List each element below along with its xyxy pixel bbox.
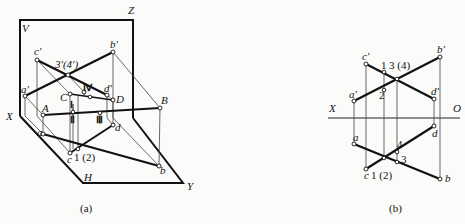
label-v-plane: V	[22, 22, 30, 34]
figure-b-orthographic: X O c′ b′ 1 3 (4) 2 a′ d′ a d 4 3 c 1 (2…	[328, 43, 461, 215]
label-2-b: 2	[379, 89, 385, 101]
caption-a: (a)	[80, 202, 93, 215]
label-roman-I: Ⅰ	[70, 99, 73, 110]
label-3-4-b: 3 (4)	[389, 59, 410, 72]
label-c-b: c	[364, 169, 369, 181]
label-b-prime-b: b′	[437, 43, 446, 55]
label-h-plane: H	[83, 171, 93, 183]
label-d-b: d	[432, 127, 438, 139]
label-d-prime: d′	[104, 82, 113, 94]
label-b-b: b	[445, 172, 451, 184]
label-B: B	[161, 94, 168, 106]
line-ab	[43, 134, 159, 166]
label-a-b: a	[353, 131, 359, 143]
label-b-prime: b′	[110, 38, 119, 50]
label-roman-II: Ⅱ	[70, 114, 75, 125]
label-a-prime-b: a′	[349, 88, 358, 100]
labels-b: X O c′ b′ 1 3 (4) 2 a′ d′ a d 4 3 c 1 (2…	[328, 43, 461, 215]
label-4-b: 4	[397, 138, 403, 150]
label-a-prime: a′	[21, 83, 30, 95]
label-1-2: 1 (2)	[74, 151, 95, 164]
label-roman-IV: Ⅳ	[83, 82, 93, 93]
label-c-prime-b: c′	[362, 50, 370, 62]
label-y-axis: Y	[187, 180, 195, 192]
label-c: c	[67, 153, 72, 165]
label-D: D	[115, 93, 124, 105]
label-A: A	[41, 102, 49, 114]
label-1-b: 1	[381, 59, 387, 71]
label-x-axis-b: X	[328, 102, 337, 114]
caption-b: (b)	[389, 202, 402, 215]
label-z-axis: Z	[128, 4, 135, 16]
label-C: C	[60, 91, 68, 103]
label-3-b: 3	[401, 153, 407, 165]
label-d: d	[115, 121, 121, 133]
label-c-prime: c′	[34, 45, 42, 57]
projection-diagram: V Z X H Y c′ b′ 3′(4′) a′ d′ C D A B a d…	[0, 0, 465, 224]
label-roman-III: Ⅲ	[96, 114, 103, 125]
figure-a-pictorial: V Z X H Y c′ b′ 3′(4′) a′ d′ C D A B a d…	[5, 4, 195, 215]
label-d-prime-b: d′	[431, 85, 440, 97]
label-3-4-prime: 3′(4′)	[54, 58, 78, 71]
label-a: a	[37, 126, 43, 138]
label-o-axis-b: O	[453, 102, 461, 114]
label-x-axis: X	[5, 110, 14, 122]
label-1-2-b: 1 (2)	[371, 169, 392, 182]
label-b: b	[160, 164, 166, 176]
